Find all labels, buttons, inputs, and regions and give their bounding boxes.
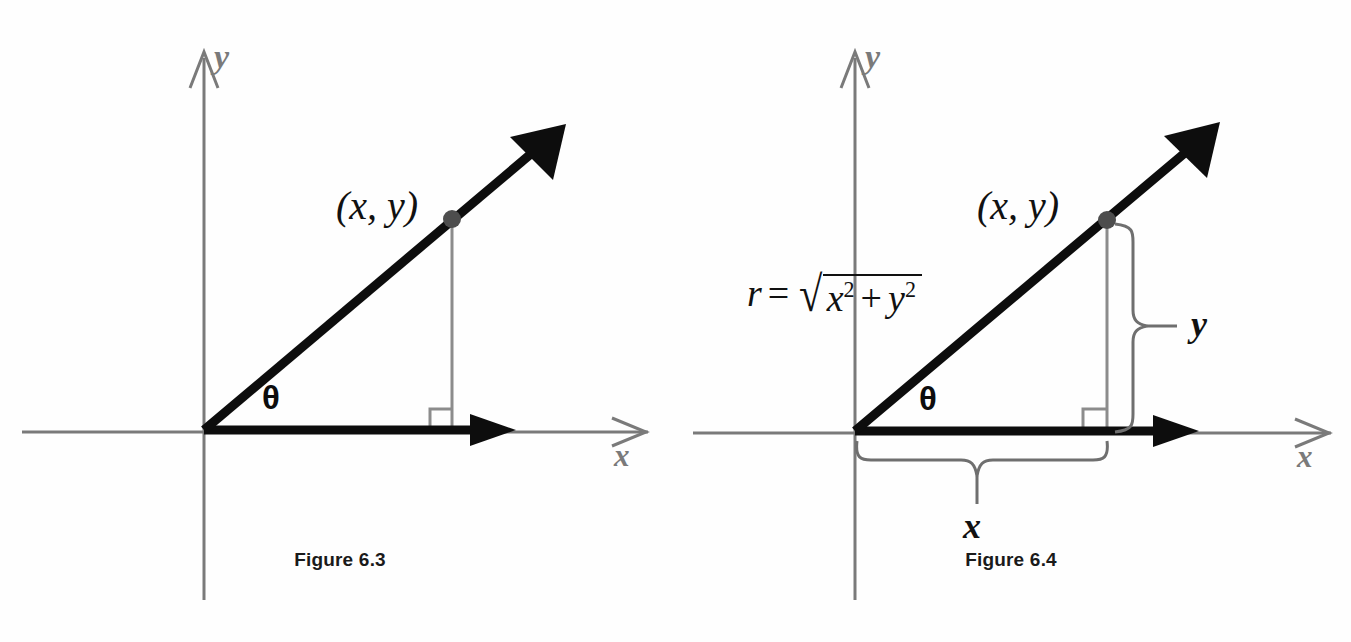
terminal-ray-arrowhead-icon — [510, 124, 566, 180]
point-marker — [443, 210, 461, 228]
figure-6-3: y x (x, y) θ Figure 6.3 — [0, 0, 680, 642]
angle-theta-label: θ — [919, 382, 937, 415]
radical-sign-icon: √ — [799, 274, 822, 317]
figure-6-3-canvas — [0, 0, 680, 600]
angle-theta-label: θ — [262, 381, 280, 414]
radius-formula: r = √ x2+y2 — [747, 274, 922, 317]
diagram-page: y x (x, y) θ Figure 6.3 — [0, 0, 1351, 642]
radicand-x: x — [827, 277, 844, 319]
radicand-y-exponent: 2 — [905, 277, 916, 302]
radicand-x-exponent: 2 — [844, 277, 855, 302]
horizontal-brace-x — [857, 441, 1108, 476]
radicand: x2+y2 — [823, 274, 922, 317]
radicand-plus: + — [855, 277, 888, 319]
x-axis-label: x — [614, 440, 630, 471]
figure-caption: Figure 6.3 — [0, 549, 680, 571]
figure-caption: Figure 6.4 — [671, 549, 1351, 571]
point-label: (x, y) — [977, 186, 1059, 226]
y-axis-label: y — [865, 40, 880, 74]
brace-label-y: y — [1191, 306, 1207, 342]
vertical-brace-y — [1115, 224, 1147, 432]
radicand-y: y — [888, 277, 905, 319]
terminal-ray-arrowhead-icon — [1164, 122, 1220, 178]
radius-formula-equals: = — [762, 274, 795, 312]
x-axis-label: x — [1297, 441, 1313, 472]
point-marker — [1098, 211, 1116, 229]
y-axis-label: y — [214, 40, 229, 74]
radius-formula-lhs: r — [747, 274, 762, 312]
initial-side-arrowhead-icon — [1153, 415, 1199, 447]
brace-label-x: x — [963, 508, 981, 544]
point-label: (x, y) — [336, 186, 418, 226]
initial-side-arrowhead-icon — [470, 414, 516, 446]
radical-group: √ x2+y2 — [797, 274, 922, 317]
figure-6-4: y x (x, y) θ r = √ x2+y2 y x Figure 6.4 — [671, 0, 1351, 642]
